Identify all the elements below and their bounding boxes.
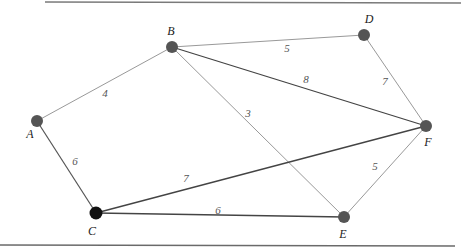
node-B xyxy=(166,41,178,53)
edge-weight-C-E: 6 xyxy=(215,204,221,216)
graph-diagram: 465837675 ABCDEF xyxy=(0,0,461,252)
edge-E-F xyxy=(344,126,426,217)
node-label-C: C xyxy=(88,224,97,238)
edges-group xyxy=(37,35,426,217)
edge-A-B xyxy=(37,47,172,121)
node-label-D: D xyxy=(364,12,374,26)
edge-weight-A-B: 4 xyxy=(102,87,108,99)
edge-weight-E-F: 5 xyxy=(372,160,378,172)
nodes-group xyxy=(31,29,432,223)
edge-weight-B-F: 8 xyxy=(303,73,309,85)
edge-weight-D-F: 7 xyxy=(382,75,388,87)
edge-B-F xyxy=(172,47,426,126)
edge-weight-C-F: 7 xyxy=(183,172,189,184)
node-label-F: F xyxy=(423,135,432,149)
node-label-E: E xyxy=(338,227,347,241)
edge-weight-A-C: 6 xyxy=(72,155,78,167)
edge-weight-B-E: 3 xyxy=(244,107,251,119)
edge-labels-group: 465837675 xyxy=(72,42,388,216)
edge-D-F xyxy=(364,35,426,126)
top-rule xyxy=(45,2,461,3)
edge-weight-B-D: 5 xyxy=(284,42,290,54)
node-D xyxy=(358,29,370,41)
bottom-rule xyxy=(0,245,455,246)
edge-B-D xyxy=(172,35,364,47)
node-label-A: A xyxy=(25,127,34,141)
edge-B-E xyxy=(172,47,344,217)
node-F xyxy=(420,120,432,132)
node-C xyxy=(90,207,103,220)
node-label-B: B xyxy=(167,24,175,38)
edge-A-C xyxy=(37,121,96,213)
node-E xyxy=(338,211,350,223)
node-A xyxy=(31,115,43,127)
